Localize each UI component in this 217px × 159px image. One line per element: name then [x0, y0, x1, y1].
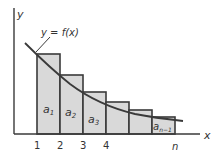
- x-tick-2: 2: [57, 140, 63, 151]
- curve-label-leader: [36, 37, 50, 52]
- riemann-sum-diagram: y x y = f(x) 1 2 3 4 n a1 a2 a3 an−1: [0, 0, 217, 159]
- curve-label: y = f(x): [40, 27, 79, 38]
- x-tick-3: 3: [80, 140, 86, 151]
- x-tick-4: 4: [103, 140, 109, 151]
- x-axis-label: x: [203, 129, 211, 142]
- x-tick-n: n: [172, 141, 178, 152]
- rectangle-a2: [60, 75, 83, 134]
- y-axis-label: y: [16, 8, 24, 21]
- x-tick-1: 1: [34, 140, 40, 151]
